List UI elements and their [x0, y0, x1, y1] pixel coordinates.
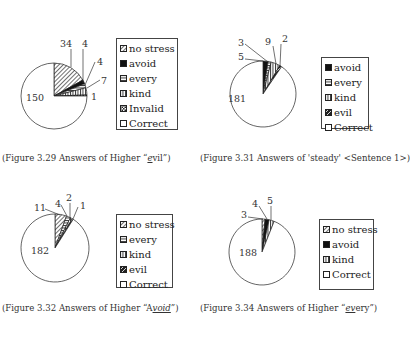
leader-line [259, 206, 267, 219]
leader-line [248, 217, 263, 219]
data-label: 4 [97, 56, 103, 67]
pie-chart-3: 11421182 [21, 192, 89, 282]
leader-line [273, 46, 276, 64]
pie-chart-1: 344471150 [21, 38, 107, 129]
pie-chart-4: 345188 [229, 195, 295, 285]
pie-chart-2: 3592181 [228, 33, 296, 127]
leader-line [73, 207, 78, 219]
data-label: 2 [66, 192, 72, 203]
data-label: 4 [252, 198, 258, 209]
data-label: 1 [80, 200, 86, 211]
data-label: 1 [91, 91, 97, 102]
leader-line [280, 44, 281, 66]
data-label: 7 [101, 75, 107, 86]
leader-line [85, 62, 95, 85]
data-label: 4 [55, 198, 61, 209]
data-label: 181 [228, 93, 246, 104]
data-label: 9 [265, 36, 271, 47]
data-label: 2 [282, 33, 288, 44]
data-label: 4 [82, 38, 88, 49]
data-label: 3 [238, 37, 244, 48]
data-label: 11 [34, 202, 46, 213]
leader-line [87, 80, 100, 88]
leader-line [245, 59, 263, 61]
data-label: 34 [60, 38, 72, 49]
data-label: 5 [267, 195, 273, 206]
data-label: 182 [31, 245, 49, 256]
data-label: 3 [241, 209, 247, 220]
data-label: 150 [26, 92, 44, 103]
data-label: 5 [238, 51, 244, 62]
data-label: 188 [239, 247, 257, 258]
